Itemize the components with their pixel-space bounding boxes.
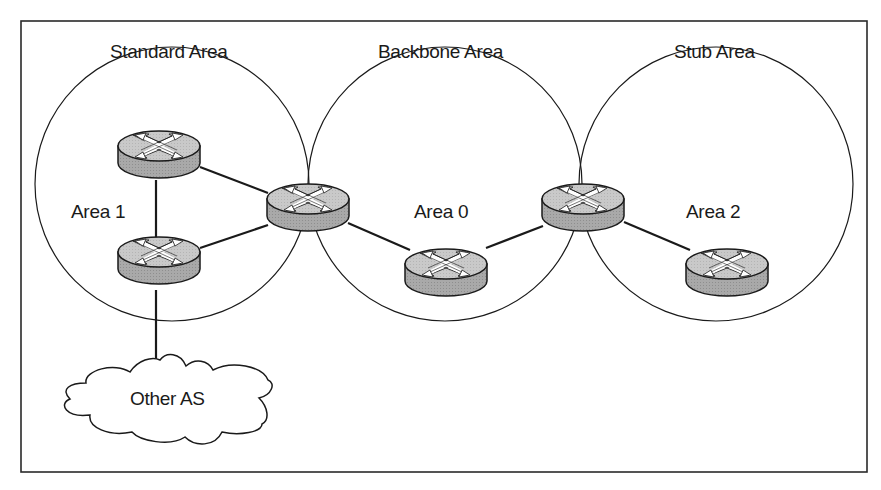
area-1-label: Area 1: [71, 201, 125, 222]
router-icon: [542, 184, 624, 231]
backbone-area-label: Backbone Area: [378, 41, 504, 62]
stub-area-label: Stub Area: [674, 41, 755, 62]
standard-area-label: Standard Area: [110, 41, 228, 62]
other-as-label: Other AS: [130, 388, 205, 409]
router-icon: [686, 249, 768, 296]
router-icon: [118, 237, 200, 284]
router-icon: [405, 249, 487, 296]
ospf-area-diagram: Standard Area Backbone Area Stub Area Ar…: [0, 0, 881, 490]
router-icon: [118, 131, 200, 178]
link-r3-r4: [348, 223, 410, 250]
area-0-label: Area 0: [414, 201, 468, 222]
area-2-label: Area 2: [686, 201, 740, 222]
link-r1-r3: [200, 167, 268, 193]
link-r2-r3: [200, 225, 268, 248]
router-icon: [267, 184, 349, 231]
link-r5-r6: [624, 222, 690, 250]
link-r4-r5: [486, 226, 543, 248]
